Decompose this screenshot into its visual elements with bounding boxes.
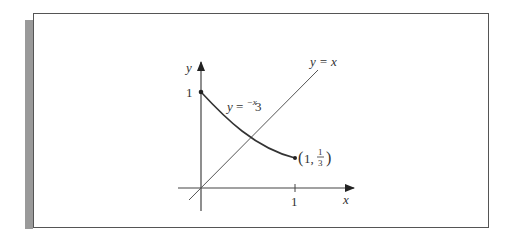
endpoint-open: ( [298,149,303,167]
endpoint-close: ) [326,149,331,167]
endpoint-den: 3 [318,158,323,168]
exponential-label-base: 3 [255,99,262,114]
graph: y x 1 1 y = −x 3 y = x ( 1, 1 3 ) [0,0,512,242]
point-0-1 [199,90,204,95]
x-tick-label: 1 [291,194,298,209]
identity-label: y = x [308,54,337,69]
point-1-third [293,156,297,160]
identity-line [189,70,318,200]
endpoint-num: 1 [318,147,323,157]
exponential-label: y = −x [225,97,257,114]
x-axis-label: x [342,192,349,207]
endpoint-x: 1, [304,151,314,166]
y-tick-label: 1 [186,85,193,100]
y-axis-label: y [184,60,192,75]
